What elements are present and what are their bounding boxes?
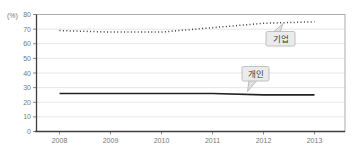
x-tick-label: 2012 <box>256 137 272 144</box>
x-tick-label: 2013 <box>307 137 323 144</box>
y-tick-label: 40 <box>23 70 31 77</box>
y-tick-label: 80 <box>23 11 31 18</box>
y-tick-label: 20 <box>23 99 31 106</box>
x-axis: 200820092010201120122013 <box>52 132 323 145</box>
x-tick-label: 2009 <box>103 137 119 144</box>
y-tick-label: 10 <box>23 113 31 120</box>
callout-label-individual: 개인 <box>248 69 264 79</box>
y-tick-label: 60 <box>23 40 31 47</box>
y-axis-unit-label: (%) <box>7 12 18 20</box>
x-tick-label: 2011 <box>205 137 220 144</box>
chart-figure: 01020304050607080 2008200920102011201220… <box>0 0 354 157</box>
y-axis: 01020304050607080 <box>23 11 36 135</box>
y-tick-label: 50 <box>23 55 31 62</box>
gridlines <box>37 29 346 117</box>
callout-label-corporate: 기업 <box>273 34 289 44</box>
y-tick-label: 70 <box>23 26 31 33</box>
callout-arrow-individual <box>248 81 258 92</box>
series-line-individual <box>60 93 315 94</box>
y-tick-label: 30 <box>23 84 31 91</box>
x-tick-label: 2008 <box>52 137 68 144</box>
line-chart: 01020304050607080 2008200920102011201220… <box>0 0 354 157</box>
y-tick-label: 0 <box>27 128 31 135</box>
x-tick-label: 2010 <box>154 137 170 144</box>
callout-corporate: 기업 <box>266 24 295 47</box>
